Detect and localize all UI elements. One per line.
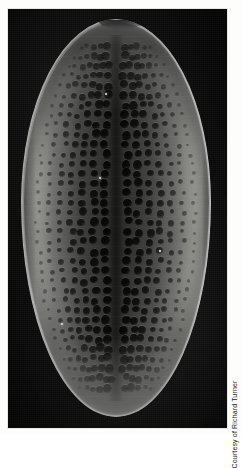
areola-pore xyxy=(119,346,127,355)
areola-pore xyxy=(66,345,71,351)
areola-pore xyxy=(70,239,77,245)
areola-pore xyxy=(138,93,145,101)
areola-pore xyxy=(161,306,167,312)
areola-pore xyxy=(89,81,97,88)
areola-pore xyxy=(121,305,129,313)
areola-pore xyxy=(122,160,131,169)
areola-pore xyxy=(67,366,71,370)
areola-pore xyxy=(122,103,130,110)
areola-pore xyxy=(127,345,135,354)
areola-pore xyxy=(191,270,195,273)
areola-pore xyxy=(191,162,194,165)
areola-pore xyxy=(133,171,141,179)
areola-pore xyxy=(83,296,90,304)
areola-pore xyxy=(69,161,76,167)
areola-pore xyxy=(43,289,47,294)
areola-pore xyxy=(79,259,86,266)
areola-pore xyxy=(83,307,90,315)
areola-pore xyxy=(129,55,136,61)
areola-pore xyxy=(170,112,175,117)
areola-pore xyxy=(99,62,107,69)
areola-pore xyxy=(101,266,110,274)
areola-pore xyxy=(153,277,160,284)
areola-pore xyxy=(170,348,173,351)
areola-pore xyxy=(127,72,135,80)
areola-pore xyxy=(74,132,80,137)
areola-pore xyxy=(74,114,80,119)
areola-pore xyxy=(178,171,182,175)
areola-pore xyxy=(179,328,183,332)
areola-pore xyxy=(133,42,140,50)
areola-pore xyxy=(133,210,141,218)
areola-pore xyxy=(81,344,88,351)
areola-pore xyxy=(68,65,72,68)
areola-pore xyxy=(181,318,184,322)
surface-speck xyxy=(99,177,101,179)
areola-pore xyxy=(77,247,85,255)
areola-pore xyxy=(125,238,134,247)
areola-pore xyxy=(169,162,174,166)
areola-pore xyxy=(78,189,86,196)
areola-pore xyxy=(81,268,88,275)
areola-pore xyxy=(84,120,92,127)
areola-pore xyxy=(52,328,55,332)
areola-pore xyxy=(91,198,99,206)
areola-pore xyxy=(173,339,176,342)
areola-pore xyxy=(158,170,164,176)
areola-pore xyxy=(73,367,77,372)
areola-pore xyxy=(87,62,94,68)
areola-pore xyxy=(174,132,178,136)
areola-pore xyxy=(36,180,40,184)
areola-pore xyxy=(103,161,112,171)
areola-pore xyxy=(92,287,101,295)
areola-pore xyxy=(141,53,147,59)
areola-pore xyxy=(127,383,134,391)
areola-pore xyxy=(68,327,73,332)
areola-pore xyxy=(90,258,99,267)
areola-pore xyxy=(90,140,98,149)
areola-pore xyxy=(152,113,158,120)
areola-pore xyxy=(135,81,143,88)
areola-pore xyxy=(45,222,49,226)
areola-pore xyxy=(124,248,132,255)
areola-pore xyxy=(67,317,73,323)
areola-pore xyxy=(155,161,162,168)
areola-pore xyxy=(138,326,146,334)
areola-pore xyxy=(65,306,71,313)
areola-pore xyxy=(84,376,90,382)
areola-pore xyxy=(88,91,95,98)
areola-pore xyxy=(93,63,100,69)
areola-pore xyxy=(185,133,189,137)
areola-pore xyxy=(40,161,43,164)
areola-pore xyxy=(170,209,175,215)
areola-pore xyxy=(144,140,151,147)
areola-pore xyxy=(177,161,181,165)
areola-pore xyxy=(38,210,41,214)
areola-pore xyxy=(158,239,164,244)
areola-pore xyxy=(154,63,158,67)
areola-pore xyxy=(146,190,153,197)
areola-pore xyxy=(146,200,154,209)
areola-pore xyxy=(123,179,132,187)
areola-pore xyxy=(72,377,75,380)
areola-pore xyxy=(40,270,44,274)
areola-pore xyxy=(92,267,100,274)
areola-pore xyxy=(157,210,164,218)
areola-pore xyxy=(156,181,162,188)
areola-pore xyxy=(194,212,197,215)
areola-pore xyxy=(136,345,143,353)
areola-pore xyxy=(137,334,145,341)
areola-pore xyxy=(93,326,101,334)
areola-pore xyxy=(182,211,186,215)
areola-pore xyxy=(139,110,147,118)
areola-pore xyxy=(134,278,142,285)
areola-pore xyxy=(193,232,196,235)
areola-pore xyxy=(68,103,74,108)
areola-pore xyxy=(131,326,139,333)
areola-pore xyxy=(144,160,151,167)
areola-pore xyxy=(122,316,130,324)
areola-pore xyxy=(47,172,51,176)
areola-pore xyxy=(70,228,77,235)
areola-pore xyxy=(92,129,101,138)
areola-pore xyxy=(100,129,109,138)
